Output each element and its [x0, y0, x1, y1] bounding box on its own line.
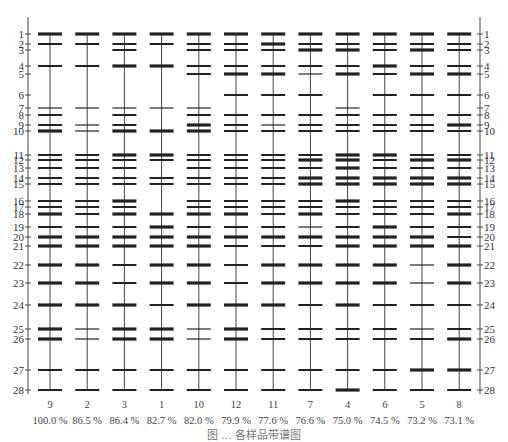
right-tick-label: 18	[484, 208, 496, 220]
right-axis: 1234567891011121314151617181920212223242…	[477, 17, 496, 396]
left-tick-label: 18	[13, 208, 25, 220]
lane-sample-label: 6	[382, 399, 387, 410]
lane-sample-label: 10	[194, 399, 205, 410]
left-tick-label: 21	[13, 240, 24, 252]
right-tick-label: 28	[484, 384, 496, 396]
lane-sample-label: 12	[231, 399, 242, 410]
right-tick-label: 26	[484, 333, 496, 345]
lane-sample-label: 2	[85, 399, 90, 410]
lane-6	[373, 34, 397, 390]
lane-9	[38, 34, 62, 390]
right-tick-label: 22	[484, 259, 495, 271]
lane-labels: 9100.0 %286.5 %386.4 %182.7 %1082.0 %127…	[33, 399, 475, 426]
lane-similarity-label: 73.2 %	[407, 415, 437, 426]
lane-11	[261, 34, 285, 390]
lane-similarity-label: 86.5 %	[72, 415, 102, 426]
left-tick-label: 15	[13, 178, 25, 190]
lane-3	[112, 34, 136, 390]
right-tick-label: 24	[484, 299, 496, 311]
lane-sample-label: 8	[457, 399, 462, 410]
lane-sample-label: 5	[419, 399, 424, 410]
right-tick-label: 27	[484, 364, 496, 376]
lane-sample-label: 4	[345, 399, 351, 410]
left-tick-label: 26	[13, 333, 25, 345]
lane-similarity-label: 82.0 %	[184, 415, 214, 426]
lane-similarity-label: 73.1 %	[444, 415, 474, 426]
lane-similarity-label: 75.0 %	[333, 415, 363, 426]
lane-2	[75, 34, 99, 390]
left-tick-label: 28	[13, 384, 25, 396]
lane-sample-label: 7	[308, 399, 313, 410]
lane-similarity-label: 79.9 %	[221, 415, 251, 426]
lane-1	[150, 34, 174, 390]
left-tick-label: 5	[19, 68, 25, 80]
lane-sample-label: 1	[159, 399, 164, 410]
lane-sample-label: 9	[47, 399, 52, 410]
right-tick-label: 23	[484, 277, 496, 289]
right-tick-label: 21	[484, 240, 495, 252]
right-tick-label: 3	[484, 44, 490, 56]
left-tick-label: 3	[19, 44, 25, 56]
lane-similarity-label: 82.7 %	[147, 415, 177, 426]
lane-sample-label: 11	[268, 399, 278, 410]
lane-sample-label: 3	[122, 399, 127, 410]
left-tick-label: 23	[13, 277, 25, 289]
lane-similarity-label: 86.4 %	[110, 415, 140, 426]
gel-band-diagram: 1234567891011121314151617181920212223242…	[0, 0, 508, 442]
left-tick-label: 6	[19, 89, 25, 101]
lane-7	[298, 34, 322, 390]
left-axis: 1234567891011121314151617181920212223242…	[13, 17, 31, 396]
left-tick-label: 27	[13, 364, 25, 376]
lane-similarity-label: 76.6 %	[296, 415, 326, 426]
left-tick-label: 24	[13, 299, 25, 311]
right-tick-label: 6	[484, 89, 490, 101]
right-tick-label: 15	[484, 178, 496, 190]
left-tick-label: 22	[13, 259, 24, 271]
right-tick-label: 5	[484, 68, 490, 80]
figure-caption: 图 … 各样品带谱图	[207, 428, 301, 441]
lane-5	[410, 34, 434, 390]
right-tick-label: 10	[484, 125, 496, 137]
lane-similarity-label: 100.0 %	[33, 415, 68, 426]
left-tick-label: 10	[13, 125, 25, 137]
lanes	[38, 34, 471, 390]
lane-8	[447, 34, 471, 390]
lane-10	[187, 34, 211, 390]
lane-similarity-label: 77.6 %	[258, 415, 288, 426]
lane-12	[224, 34, 248, 390]
lane-4	[336, 34, 360, 390]
lane-similarity-label: 74.5 %	[370, 415, 400, 426]
